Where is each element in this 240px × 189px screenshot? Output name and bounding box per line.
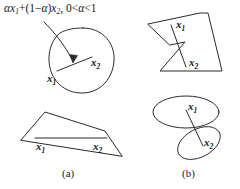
convex-blob-outline xyxy=(49,28,114,93)
panel-caption-a: (a) xyxy=(62,167,74,179)
ellipse-x2-label: x2 xyxy=(203,136,214,151)
ellipse-x1-subscript: 1 xyxy=(194,106,198,115)
polygon-x2-label: x2 xyxy=(188,56,199,71)
quad-x2-subscript: 2 xyxy=(98,146,103,155)
blob-x2-label: x2 xyxy=(90,56,101,71)
quad-x1-label: x1 xyxy=(35,140,45,155)
panel-caption-b: (b) xyxy=(182,167,195,179)
nonconvex-polygon-shape xyxy=(148,13,222,71)
polygon-x2-subscript: 2 xyxy=(194,62,199,71)
quad-x1-subscript: 1 xyxy=(42,146,46,155)
polygon-x1-subscript: 1 xyxy=(182,24,186,33)
blob-x2-subscript: 2 xyxy=(96,62,101,71)
blob-x1-label: x1 xyxy=(46,72,56,87)
convexity-illustration: x1 x2 x1 x2 x1 x2 x1 x2 xyxy=(0,0,240,189)
formula-arrow-head xyxy=(70,55,78,64)
nonconvex-polygon-outline xyxy=(148,13,222,71)
blob-x1-subscript: 1 xyxy=(53,78,57,87)
ellipse-x1-label: x1 xyxy=(187,100,197,115)
upper-ellipse-outline xyxy=(153,96,219,128)
polygon-x1-label: x1 xyxy=(175,18,185,33)
convex-blob-shape xyxy=(49,28,114,93)
formula-arrow-shaft xyxy=(44,22,73,61)
ellipse-x2-subscript: 2 xyxy=(209,142,214,151)
